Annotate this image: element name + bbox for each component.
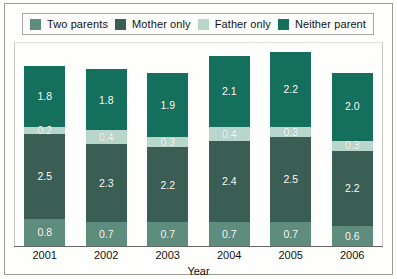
bar-segment-value: 0.3 bbox=[283, 127, 298, 138]
bar-segment: 2.2 bbox=[332, 151, 373, 226]
x-tick-label: 2003 bbox=[147, 249, 188, 261]
legend-item-neither-parent: Neither parent bbox=[278, 18, 366, 30]
bar-segment-value: 0.8 bbox=[37, 227, 52, 238]
x-axis-title: Year bbox=[14, 265, 383, 277]
bar-segment-value: 2.5 bbox=[283, 174, 298, 185]
bar-segment: 1.8 bbox=[24, 66, 65, 127]
bar-segment: 0.4 bbox=[209, 127, 250, 141]
bar-segment-value: 2.2 bbox=[283, 84, 298, 95]
legend-label: Father only bbox=[215, 18, 271, 30]
x-axis-tick-labels: 200120022003200420052006 bbox=[14, 249, 383, 261]
bar-segment: 0.7 bbox=[270, 222, 311, 246]
bar-segment: 0.4 bbox=[86, 130, 127, 144]
bar-segment-value: 2.1 bbox=[222, 86, 237, 97]
bar-segment: 0.3 bbox=[332, 141, 373, 151]
bar-segment-value: 2.2 bbox=[345, 183, 360, 194]
bar-segment-value: 0.6 bbox=[345, 231, 360, 242]
legend-label: Two parents bbox=[47, 18, 108, 30]
x-tick-label: 2001 bbox=[24, 249, 65, 261]
x-tick-label: 2002 bbox=[86, 249, 127, 261]
bar-column: 1.80.42.30.7 bbox=[86, 42, 127, 246]
legend-item-two-parents: Two parents bbox=[30, 18, 108, 30]
legend-swatch-icon bbox=[278, 19, 289, 30]
legend-swatch-icon bbox=[30, 19, 41, 30]
bar-segment-value: 0.3 bbox=[345, 140, 360, 151]
bar-segment-value: 0.4 bbox=[222, 129, 237, 140]
x-tick-label: 2006 bbox=[332, 249, 373, 261]
legend-item-father-only: Father only bbox=[198, 18, 271, 30]
bar-segment-value: 2.4 bbox=[222, 176, 237, 187]
bar-segment-value: 2.3 bbox=[99, 178, 114, 189]
bar-segment: 0.8 bbox=[24, 219, 65, 246]
bar-segment-value: 0.4 bbox=[99, 132, 114, 143]
bar-segment-value: 0.7 bbox=[99, 229, 114, 240]
legend-label: Neither parent bbox=[295, 18, 366, 30]
x-axis-line bbox=[14, 246, 383, 247]
bar-segment: 1.9 bbox=[147, 73, 188, 138]
bar-segment-value: 0.7 bbox=[222, 229, 237, 240]
bar-segment-value: 0.3 bbox=[160, 137, 175, 148]
legend-swatch-icon bbox=[198, 19, 209, 30]
bar-segment-value: 2.5 bbox=[37, 171, 52, 182]
x-tick-label: 2004 bbox=[209, 249, 250, 261]
bar-segment: 2.0 bbox=[332, 73, 373, 141]
bar-segment: 2.5 bbox=[270, 137, 311, 222]
bar-segment-value: 0.7 bbox=[160, 229, 175, 240]
bar-segment: 2.2 bbox=[147, 147, 188, 222]
bar-segment-value: 2.2 bbox=[160, 180, 175, 191]
x-tick-label: 2005 bbox=[270, 249, 311, 261]
bar-segment-value: 1.8 bbox=[37, 91, 52, 102]
bar-column: 2.00.32.20.6 bbox=[332, 42, 373, 246]
bar-segment: 2.5 bbox=[24, 134, 65, 219]
bar-segment-value: 1.9 bbox=[160, 100, 175, 111]
bar-column: 2.10.42.40.7 bbox=[209, 42, 250, 246]
bar-column: 2.20.32.50.7 bbox=[270, 42, 311, 246]
bar-segment: 0.7 bbox=[147, 222, 188, 246]
chart-figure: Two parents Mother only Father only Neit… bbox=[0, 0, 397, 279]
bar-segment: 2.3 bbox=[86, 144, 127, 222]
bar-segment: 0.6 bbox=[332, 226, 373, 246]
bar-segment-value: 1.8 bbox=[99, 95, 114, 106]
bar-segment-value: 2.0 bbox=[345, 101, 360, 112]
bar-segment: 1.8 bbox=[86, 69, 127, 130]
legend-item-mother-only: Mother only bbox=[115, 18, 191, 30]
bar-segment: 0.3 bbox=[147, 137, 188, 147]
bar-column: 1.80.22.50.8 bbox=[24, 42, 65, 246]
bar-segment: 0.7 bbox=[209, 222, 250, 246]
bar-segment: 2.2 bbox=[270, 52, 311, 127]
bar-column: 1.90.32.20.7 bbox=[147, 42, 188, 246]
bar-segment: 0.2 bbox=[24, 127, 65, 134]
bar-segment-value: 0.7 bbox=[283, 229, 298, 240]
stacked-bar-group: 1.80.22.50.81.80.42.30.71.90.32.20.72.10… bbox=[14, 42, 383, 246]
chart-legend: Two parents Mother only Father only Neit… bbox=[22, 13, 374, 35]
bar-segment: 0.7 bbox=[86, 222, 127, 246]
bar-segment: 0.3 bbox=[270, 127, 311, 137]
bar-segment: 2.1 bbox=[209, 56, 250, 127]
bar-segment: 2.4 bbox=[209, 141, 250, 223]
legend-swatch-icon bbox=[115, 19, 126, 30]
legend-label: Mother only bbox=[132, 18, 191, 30]
